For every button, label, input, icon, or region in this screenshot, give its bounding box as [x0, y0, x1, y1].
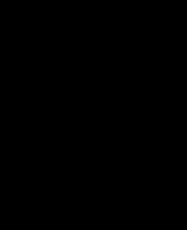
- figure-background: [0, 0, 187, 230]
- illustration-figure: [0, 0, 187, 230]
- illustration-canvas: [0, 0, 187, 230]
